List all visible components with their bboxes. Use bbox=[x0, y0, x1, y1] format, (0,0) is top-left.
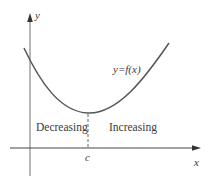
function-curve bbox=[24, 43, 169, 113]
y-axis-label: y bbox=[35, 10, 40, 21]
increasing-region-label: Increasing bbox=[109, 122, 157, 134]
diagram-graphics bbox=[0, 0, 215, 176]
function-diagram: y x c y=f(x) Decreasing Increasing bbox=[0, 0, 215, 176]
y-axis-arrow-icon bbox=[27, 13, 33, 22]
x-axis-arrow-icon bbox=[192, 145, 201, 151]
x-axis-label: x bbox=[194, 157, 199, 168]
critical-point-label: c bbox=[85, 152, 90, 163]
curve-label: y=f(x) bbox=[113, 64, 141, 75]
decreasing-region-label: Decreasing bbox=[36, 122, 88, 134]
